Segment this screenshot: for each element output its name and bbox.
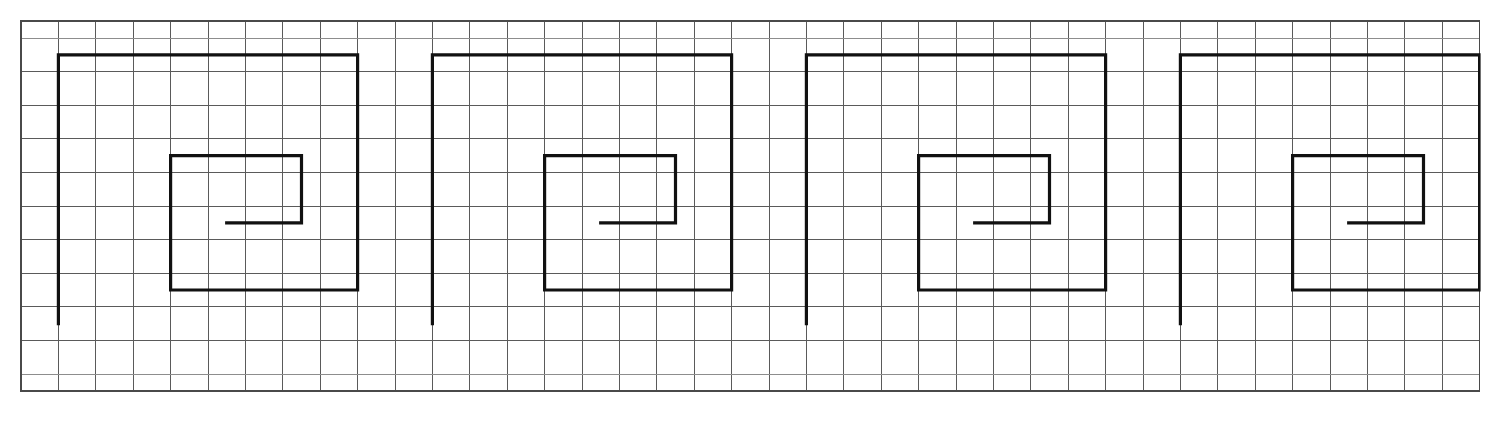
grid-and-motif-svg bbox=[0, 0, 1485, 441]
figure-page: Greek key border design bbox=[0, 0, 1485, 441]
greek-key-border-figure bbox=[0, 0, 1485, 441]
canvas-background bbox=[0, 0, 1485, 441]
